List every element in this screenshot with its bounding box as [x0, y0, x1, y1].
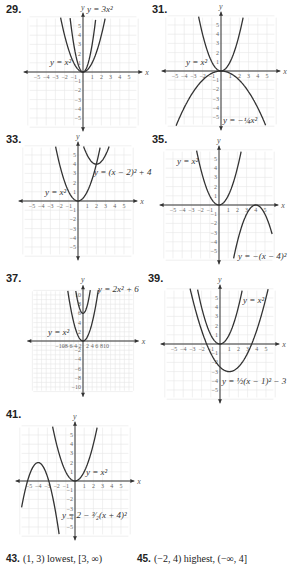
parabola-graph: xy−5−5−4−4−3−3−2−2−1−11122334455y = x²y … [0, 0, 293, 568]
svg-text:2: 2 [92, 483, 95, 489]
answer-number: 43. [6, 553, 20, 564]
svg-text:−5: −5 [67, 524, 73, 530]
parabola-curve [22, 463, 60, 534]
svg-text:1: 1 [70, 469, 73, 475]
svg-text:−2: −2 [53, 483, 59, 489]
svg-text:2: 2 [70, 460, 73, 466]
equation-label: y = x² [85, 467, 108, 477]
svg-text:−4: −4 [35, 483, 41, 489]
answer-value: (−2, 4) highest, (−∞, 4] [154, 553, 247, 564]
svg-text:4: 4 [110, 483, 113, 489]
answer-number: 45. [137, 553, 151, 564]
answer-text: 45.(−2, 4) highest, (−∞, 4] [137, 553, 247, 564]
svg-text:y: y [72, 412, 77, 421]
svg-text:−1: −1 [67, 487, 73, 493]
svg-text:x: x [136, 477, 141, 486]
svg-text:3: 3 [101, 483, 104, 489]
equation-label: y = 2 − ³⁄₂(x + 4)² [61, 510, 127, 520]
svg-text:3: 3 [70, 450, 73, 456]
svg-text:5: 5 [70, 432, 73, 438]
svg-text:4: 4 [70, 441, 73, 447]
svg-text:1: 1 [83, 483, 86, 489]
answer-text: 43.(1, 3) lowest, [3, ∞) [6, 553, 102, 564]
svg-text:5: 5 [120, 483, 123, 489]
svg-text:−2: −2 [67, 496, 73, 502]
answer-value: (1, 3) lowest, [3, ∞) [23, 553, 102, 564]
